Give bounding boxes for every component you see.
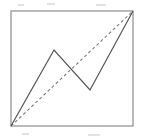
figure-container [0,0,143,139]
scan-speck-top-left [18,4,24,6]
scan-speck-top-right [96,4,106,6]
scan-speck-top-mid [47,3,55,5]
scan-speck-bottom-left [22,133,29,135]
scan-speck-bottom-right [88,134,100,136]
zigzag-diagram-svg [0,0,143,139]
